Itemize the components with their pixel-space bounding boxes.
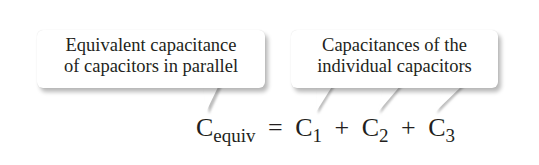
equals-sign: =: [268, 113, 283, 142]
right-callout-tail-c2: [378, 85, 403, 114]
c3-subscript: 3: [446, 125, 456, 146]
c2-symbol: C: [362, 113, 379, 142]
c3-symbol: C: [428, 113, 445, 142]
plus-sign-2: +: [401, 113, 416, 142]
callout-left-line-1: Equivalent capacitance: [43, 35, 259, 56]
c1-subscript: 1: [313, 125, 323, 146]
c-equiv-symbol: C: [196, 113, 213, 142]
callout-right-line-1: Capacitances of the: [297, 35, 492, 56]
right-callout-tail-c1: [316, 85, 335, 114]
equivalent-capacitance-callout: Equivalent capacitance of capacitors in …: [37, 30, 265, 88]
right-callout-tail-c3: [435, 85, 465, 114]
left-callout-tail: [203, 85, 222, 114]
individual-capacitances-callout: Capacitances of the individual capacitor…: [291, 30, 498, 88]
parallel-capacitance-equation: Cequiv = C1 + C2 + C3: [196, 113, 455, 143]
c2-subscript: 2: [379, 125, 389, 146]
c-equiv-subscript: equiv: [213, 125, 255, 146]
plus-sign-1: +: [335, 113, 350, 142]
callout-left-line-2: of capacitors in parallel: [43, 56, 259, 77]
c1-symbol: C: [295, 113, 312, 142]
callout-right-line-2: individual capacitors: [297, 56, 492, 77]
